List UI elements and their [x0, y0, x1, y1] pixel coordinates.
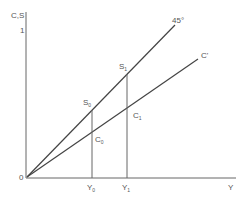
label-45-degree: 45°: [172, 17, 184, 25]
label-s1: S1: [119, 63, 127, 72]
line-45-degree: [27, 25, 175, 177]
origin-label: 0: [19, 174, 23, 182]
y-axis-label: C,S: [11, 12, 24, 20]
tick-y1: Y1: [122, 184, 130, 193]
line-consumption: [27, 59, 198, 177]
label-c1: C1: [133, 112, 142, 121]
label-c-prime: C': [201, 52, 208, 60]
tick-y0: Y0: [87, 184, 95, 193]
label-s0: S0: [83, 99, 91, 108]
label-c0: C0: [95, 136, 104, 145]
x-axis-label: Y: [228, 184, 233, 192]
diagram-canvas: [0, 0, 245, 203]
y-axis-tick: 1: [20, 27, 24, 35]
